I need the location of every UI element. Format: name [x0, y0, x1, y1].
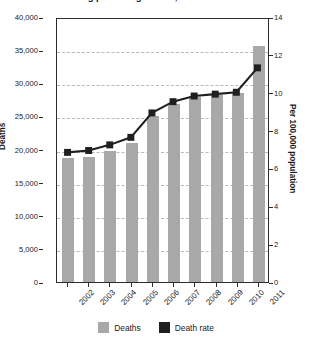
- x-axis-tick-mark: [237, 283, 238, 287]
- x-axis-tick-label: 2004: [119, 288, 138, 307]
- x-axis-tick-label: 2008: [205, 288, 224, 307]
- x-axis-tick-label: 2002: [77, 288, 96, 307]
- y-axis-left-tick-label: 25,000: [15, 112, 38, 121]
- x-axis-tick-mark: [131, 283, 132, 287]
- x-axis-tick-mark: [194, 283, 195, 287]
- line-series-death-rate: [57, 19, 268, 282]
- legend-swatch-icon: [159, 322, 170, 333]
- x-axis-tick-mark: [88, 283, 89, 287]
- y-axis-left-tick-label: 0: [34, 278, 38, 287]
- death-rate-line: [68, 68, 258, 153]
- y-axis-right-tick-label: 2: [274, 240, 278, 249]
- x-axis-tick-label: 2006: [162, 288, 181, 307]
- data-point-marker: [254, 64, 261, 71]
- data-point-marker: [148, 109, 155, 116]
- x-axis-tick-label: 2005: [141, 288, 160, 307]
- x-axis-tick-label: 2007: [183, 288, 202, 307]
- x-axis-tick-mark: [67, 283, 68, 287]
- data-point-marker: [64, 149, 71, 156]
- y-axis-left-tick-label: 15,000: [15, 179, 38, 188]
- legend-label: Death rate: [175, 323, 214, 333]
- chart-title: Drug poisoning deaths, United States: [0, 0, 312, 2]
- data-point-marker: [233, 89, 240, 96]
- data-point-marker: [127, 134, 134, 141]
- x-axis-tick-mark: [216, 283, 217, 287]
- y-axis-right-tick-label: 8: [274, 127, 278, 136]
- drug-poisoning-deaths-chart: Drug poisoning deaths, United States Dea…: [0, 0, 312, 339]
- plot-area: [56, 18, 269, 283]
- data-point-marker: [191, 93, 198, 100]
- y-axis-right-tick-label: 10: [274, 89, 282, 98]
- legend-label: Deaths: [114, 323, 141, 333]
- x-axis-tick-mark: [152, 283, 153, 287]
- y-axis-right-tick-label: 6: [274, 164, 278, 173]
- y-axis-left-tick-label: 10,000: [15, 212, 38, 221]
- y-axis-left-tick-label: 35,000: [15, 46, 38, 55]
- legend-item: Deaths: [98, 322, 141, 333]
- legend-swatch-icon: [98, 322, 109, 333]
- x-axis-tick-mark: [173, 283, 174, 287]
- y-axis-right-tick-label: 12: [274, 51, 282, 60]
- chart-legend: DeathsDeath rate: [0, 322, 312, 333]
- x-axis-tick-label: 2010: [247, 288, 266, 307]
- y-axis-left-title: Deaths: [0, 123, 7, 150]
- y-axis-right-tick-label: 14: [274, 13, 282, 22]
- x-axis-tick-label: 2011: [268, 288, 287, 307]
- data-point-marker: [106, 141, 113, 148]
- data-point-marker: [212, 91, 219, 98]
- x-axis-tick-mark: [109, 283, 110, 287]
- y-axis-right-title: Per 100,000 population: [288, 104, 297, 193]
- data-point-marker: [170, 98, 177, 105]
- legend-item: Death rate: [159, 322, 214, 333]
- x-axis-tick-mark: [258, 283, 259, 287]
- y-axis-left-tick-label: 30,000: [15, 79, 38, 88]
- y-axis-left-tick-label: 5,000: [19, 245, 38, 254]
- y-axis-left-tick-label: 20,000: [15, 146, 38, 155]
- y-axis-right-tick-label: 0: [274, 278, 278, 287]
- x-axis-tick-label: 2009: [226, 288, 245, 307]
- data-point-marker: [85, 147, 92, 154]
- x-axis-tick-label: 2003: [98, 288, 117, 307]
- y-axis-left-tick-label: 40,000: [15, 13, 38, 22]
- y-axis-right-tick-label: 4: [274, 202, 278, 211]
